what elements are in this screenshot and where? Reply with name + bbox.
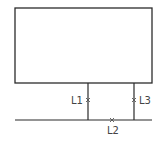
label-l2: L2 <box>107 125 119 136</box>
label-l1: L1 <box>71 95 83 106</box>
diagram-canvas: L1 L2 L3 <box>0 0 162 142</box>
label-l3: L3 <box>139 95 151 106</box>
enclosure-box <box>15 8 152 83</box>
